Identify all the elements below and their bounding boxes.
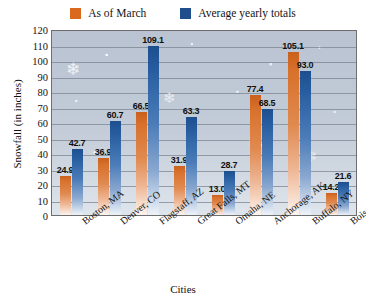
x-axis-label: Denver, CO (118, 218, 125, 227)
legend-item-as-of-march: As of March (70, 7, 146, 19)
bar-group: 13.028.7 (212, 31, 235, 215)
bar-value-label: 109.1 (142, 35, 164, 45)
bar-group: 24.942.7 (60, 31, 83, 215)
y-axis-tick-label: 90 (38, 71, 49, 82)
bar-column: 66.5 (136, 31, 147, 215)
x-axis-label: Boston, MA (80, 218, 87, 227)
bar-column: 109.1 (148, 31, 159, 215)
bar[interactable] (72, 149, 83, 215)
y-axis-tick-label: 120 (32, 25, 48, 36)
bar-value-label: 21.6 (335, 171, 352, 181)
legend-swatch-icon-blue (180, 8, 191, 19)
bar-value-label: 68.5 (259, 98, 276, 108)
bar-value-label: 93.0 (297, 60, 314, 70)
y-axis-tick-label: 20 (38, 180, 49, 191)
x-axis-label: Buffalo, NY (310, 218, 317, 227)
bar-column: 21.6 (338, 31, 349, 215)
x-axis-label: Great Falls, MT (195, 218, 202, 227)
bar-value-label: 63.3 (183, 106, 200, 116)
bar-value-label: 42.7 (69, 138, 86, 148)
bar-value-label: 28.7 (221, 160, 238, 170)
bar-group: 105.193.0 (288, 31, 311, 215)
bar-column: 36.9 (98, 31, 109, 215)
legend-swatch-icon-orange (70, 8, 81, 19)
y-axis-tick-label: 70 (38, 102, 49, 113)
x-axis-label: Flagstaff, AZ (157, 218, 164, 227)
legend-label-as-of-march: As of March (88, 7, 146, 19)
y-axis-tick-label: 0 (43, 211, 48, 222)
x-axis-label: Boise, ID (348, 218, 355, 227)
y-axis-ticks: 1201101009080706050403020100 (20, 30, 48, 216)
y-axis-tick-label: 110 (33, 40, 48, 51)
bar-column: 31.9 (174, 31, 185, 215)
bar-group: 77.468.5 (250, 31, 273, 215)
y-axis-tick-label: 80 (38, 87, 49, 98)
y-axis-tick-label: 40 (38, 149, 49, 160)
y-axis-tick-label: 100 (32, 56, 48, 67)
snowfall-bar-chart: As of March Average yearly totals Snowfa… (0, 0, 366, 302)
bar-column: 24.9 (60, 31, 71, 215)
bar[interactable] (60, 176, 71, 215)
x-axis-labels: Boston, MADenver, COFlagstaff, AZGreat F… (51, 218, 357, 278)
y-axis-tick-label: 30 (38, 164, 49, 175)
bar-column: 13.0 (212, 31, 223, 215)
legend-item-average-yearly-totals: Average yearly totals (180, 7, 296, 19)
bar-group: 14.221.6 (326, 31, 349, 215)
legend-label-average-yearly-totals: Average yearly totals (198, 7, 296, 19)
x-axis-title: Cities (0, 283, 366, 295)
chart-legend: As of March Average yearly totals (0, 2, 366, 24)
bar-value-label: 60.7 (107, 110, 124, 120)
bar-group: 31.963.3 (174, 31, 197, 215)
y-axis-tick-label: 10 (38, 195, 49, 206)
y-axis-tick-label: 50 (38, 133, 49, 144)
y-axis-tick-label: 60 (38, 118, 49, 129)
bar[interactable] (288, 52, 299, 215)
bar-column: 42.7 (72, 31, 83, 215)
bar-column: 105.1 (288, 31, 299, 215)
x-axis-label: Anchorage, AK (271, 218, 278, 227)
bar-column: 68.5 (262, 31, 273, 215)
x-axis-label: Omaha, NE (233, 218, 240, 227)
